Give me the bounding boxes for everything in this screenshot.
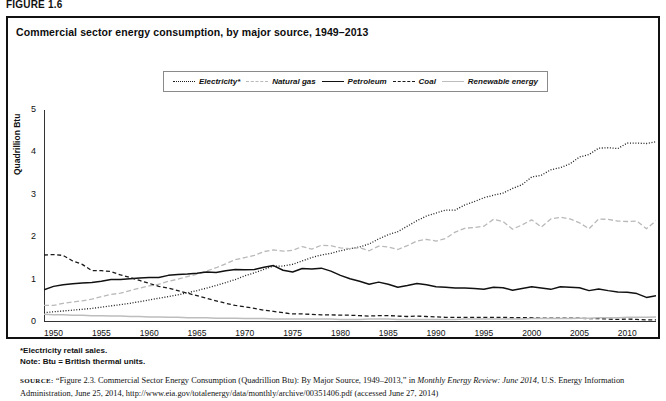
chart-legend: Electricity* Natural gas Petroleum Coal … (163, 71, 548, 92)
legend-label-renewable-energy: Renewable energy (468, 77, 538, 86)
x-tick-label: 1985 (371, 328, 405, 338)
dotted-line-icon (173, 78, 195, 85)
x-tick-label: 1955 (84, 328, 118, 338)
x-tick-label: 2005 (563, 328, 597, 338)
y-tick-label: 2 (22, 231, 36, 241)
y-tick-label: 0 (22, 316, 36, 326)
y-axis-title: Quadrillion Btu (12, 114, 22, 175)
legend-label-petroleum: Petroleum (348, 77, 387, 86)
chart-notes: *Electricity retail sales. Note: Btu = B… (20, 345, 145, 367)
legend-item-electricity: Electricity* (173, 77, 240, 86)
x-tick-label: 1950 (37, 328, 71, 338)
footnote-electricity: *Electricity retail sales. (20, 345, 145, 356)
legend-item-coal: Coal (393, 77, 436, 86)
source-italic-1: Monthly Energy Review: June 2014 (417, 376, 537, 385)
figure-page: FIGURE 1.6 Commercial sector energy cons… (0, 0, 666, 401)
x-tick-label: 1975 (276, 328, 310, 338)
legend-label-electricity: Electricity* (199, 77, 240, 86)
x-tick-label: 1960 (132, 328, 166, 338)
legend-label-natural-gas: Natural gas (272, 77, 316, 86)
x-tick-label: 1970 (228, 328, 262, 338)
solid-line-light-icon (442, 78, 464, 85)
legend-item-renewable-energy: Renewable energy (442, 77, 538, 86)
chart-plot-area (44, 110, 656, 322)
chart-svg (44, 110, 656, 322)
series-line-petroleum (44, 266, 656, 298)
x-tick-label: 1995 (467, 328, 501, 338)
x-tick-label: 2000 (515, 328, 549, 338)
x-tick-label: 2010 (610, 328, 644, 338)
legend-item-natural-gas: Natural gas (246, 77, 316, 86)
x-tick-label: 1980 (323, 328, 357, 338)
legend-item-petroleum: Petroleum (322, 77, 387, 86)
source-text-1: “Figure 2.3. Commercial Sector Energy Co… (56, 376, 418, 385)
note-btu: Note: Btu = British thermal units. (20, 356, 145, 367)
figure-number: FIGURE 1.6 (6, 0, 62, 10)
series-line-natural-gas (44, 217, 656, 305)
figure-title: Commercial sector energy consumption, by… (16, 26, 368, 38)
y-tick-label: 3 (22, 189, 36, 199)
dashed-line-icon (393, 78, 415, 85)
y-tick-label: 5 (22, 104, 36, 114)
source-citation: SOURCE: “Figure 2.3. Commercial Sector E… (20, 375, 662, 399)
x-tick-label: 1990 (419, 328, 453, 338)
legend-label-coal: Coal (419, 77, 436, 86)
solid-line-icon (322, 78, 344, 85)
dashed-line-light-icon (246, 78, 268, 85)
y-tick-label: 1 (22, 274, 36, 284)
source-prefix: SOURCE: (20, 377, 54, 385)
series-line-renewable-energy (44, 314, 656, 319)
y-tick-label: 4 (22, 146, 36, 156)
x-tick-label: 1965 (180, 328, 214, 338)
